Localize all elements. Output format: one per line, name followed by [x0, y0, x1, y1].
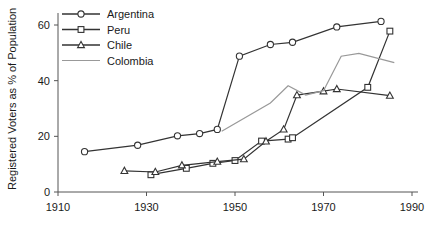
legend-label-chile: Chile [107, 39, 132, 51]
data-point-chile [333, 85, 340, 91]
y-tick-label: 40 [38, 75, 50, 87]
legend-item-chile[interactable]: Chile [62, 39, 132, 51]
data-point-argentina [174, 133, 180, 139]
data-point-argentina [334, 24, 340, 30]
legend-item-argentina[interactable]: Argentina [62, 8, 155, 20]
tick-labels-group: 020406019101930195019701990 [38, 19, 424, 213]
data-point-peru [290, 135, 296, 141]
chart-legend: ArgentinaPeruChileColombia [62, 8, 155, 67]
legend-label-colombia: Colombia [107, 55, 154, 67]
series-line-colombia [222, 53, 395, 131]
data-point-peru [387, 28, 393, 34]
data-point-peru [365, 84, 371, 90]
data-point-argentina [197, 130, 203, 136]
legend-marker-peru [78, 27, 84, 33]
legend-label-peru: Peru [107, 24, 130, 36]
legend-item-colombia[interactable]: Colombia [62, 55, 154, 67]
data-point-argentina [135, 142, 141, 148]
x-tick-label: 1930 [134, 201, 158, 213]
legend-label-argentina: Argentina [107, 8, 155, 20]
data-point-argentina [214, 126, 220, 132]
data-point-argentina [81, 149, 87, 155]
legend-item-peru[interactable]: Peru [62, 24, 130, 36]
chart-container: Registered Voters as % of Population 020… [0, 0, 434, 237]
y-tick-label: 60 [38, 19, 50, 31]
series-chile [121, 85, 393, 174]
y-axis-title: Registered Voters as % of Population [6, 8, 18, 190]
x-tick-label: 1910 [46, 201, 70, 213]
line-chart: Registered Voters as % of Population 020… [0, 0, 434, 237]
series-line-chile [124, 89, 390, 172]
x-tick-label: 1990 [400, 201, 424, 213]
data-point-chile [280, 126, 287, 132]
x-tick-label: 1950 [223, 201, 247, 213]
data-point-argentina [236, 53, 242, 59]
x-tick-label: 1970 [311, 201, 335, 213]
y-tick-label: 0 [44, 186, 50, 198]
data-point-argentina [267, 41, 273, 47]
y-tick-label: 20 [38, 130, 50, 142]
y-axis-title-group: Registered Voters as % of Population [6, 8, 18, 190]
data-point-argentina [378, 18, 384, 24]
series-colombia [222, 53, 395, 131]
data-point-argentina [289, 39, 295, 45]
legend-marker-argentina [78, 11, 84, 17]
